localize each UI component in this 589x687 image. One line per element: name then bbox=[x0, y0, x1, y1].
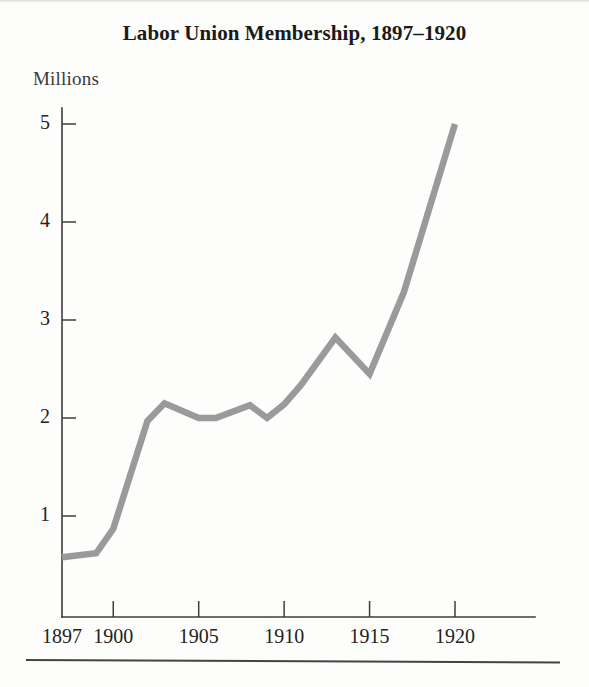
y-axis-tick-label: 1 bbox=[20, 503, 50, 526]
figure-container: Labor Union Membership, 1897–1920 Millio… bbox=[0, 0, 589, 687]
line-chart-plot bbox=[0, 0, 589, 687]
x-axis-tick-label: 1910 bbox=[256, 625, 312, 648]
x-axis-ticks bbox=[113, 601, 455, 617]
x-axis-tick-label: 1900 bbox=[85, 625, 141, 648]
y-axis-tick-label: 4 bbox=[20, 209, 50, 232]
y-axis-ticks bbox=[62, 124, 76, 516]
data-series-group bbox=[62, 124, 455, 557]
y-axis-tick-label: 3 bbox=[20, 307, 50, 330]
y-axis-tick-label: 5 bbox=[20, 111, 50, 134]
y-axis-tick-label: 2 bbox=[20, 405, 50, 428]
data-line bbox=[62, 124, 455, 557]
x-axis-tick-label: 1897 bbox=[34, 625, 90, 648]
x-axis-tick-label: 1905 bbox=[171, 625, 227, 648]
x-axis-tick-label: 1915 bbox=[342, 625, 398, 648]
x-axis-tick-label: 1920 bbox=[427, 625, 483, 648]
axes-group bbox=[62, 108, 535, 617]
